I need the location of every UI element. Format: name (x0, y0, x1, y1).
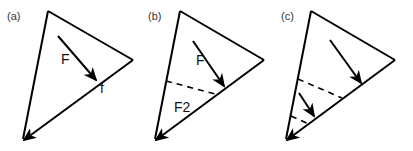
dashed-division-line (166, 81, 219, 95)
panel-label-a: (a) (7, 10, 20, 22)
dashed-division-line-1 (298, 79, 342, 98)
panel-a: (a) F f (7, 10, 133, 140)
panel-b: (b) F F2 (148, 10, 264, 140)
triangle-a (23, 11, 133, 140)
force-label-b: F (196, 52, 205, 68)
force-arrow-small-icon (299, 93, 314, 116)
diagram-canvas: (a) F f (b) F F2 (c) (0, 0, 413, 151)
triangle-b (155, 11, 264, 140)
panel-c: (c) (281, 10, 395, 140)
panel-label-c: (c) (281, 10, 294, 22)
panel-label-b: (b) (148, 10, 161, 22)
force-label-a: F (61, 51, 70, 67)
dashed-division-line-2 (291, 116, 309, 124)
force-arrow-icon (330, 40, 361, 83)
edge-label-f: f (100, 80, 104, 96)
region-label-f2: F2 (174, 99, 191, 115)
